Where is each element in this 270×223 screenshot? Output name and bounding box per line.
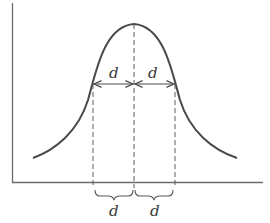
diagram-canvas: d d d d [0,0,270,223]
bell-curve-diagram: d d d d [0,0,270,223]
upper-label-right: d [148,64,158,82]
brace-right [135,190,173,200]
brace-left [95,190,133,200]
lower-label-right: d [150,202,160,220]
upper-label-left: d [109,64,119,82]
bell-curve [33,24,237,158]
lower-label-left: d [109,202,119,220]
